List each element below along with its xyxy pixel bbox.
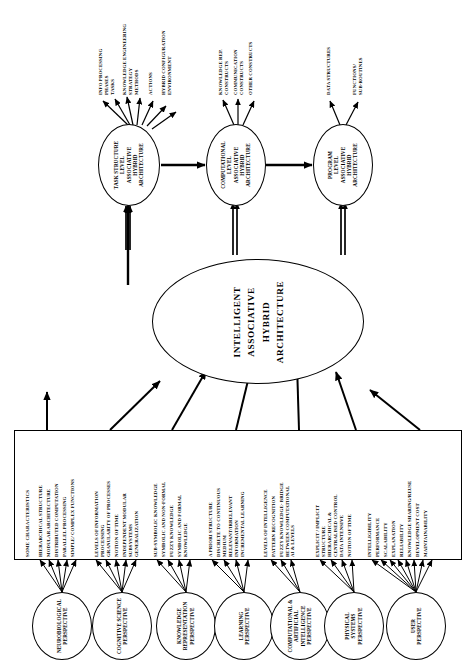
characteristic-item: EXPLICIT / IMPLICIT STRUCTURE bbox=[315, 505, 326, 557]
characteristic-item: LEVELS OF INTELLIGENCE bbox=[263, 489, 269, 557]
characteristic-item: DISCRETE TO CONTINUOUS MEDIUM bbox=[216, 488, 227, 557]
characteristic-item: SYMBOLIC AND NON-FORMAL bbox=[161, 482, 167, 557]
characteristic-item: PATTERN RECOGNITION bbox=[271, 496, 277, 557]
oval-cognitive-science-perspective[interactable]: COGNITIVE SCIENCE PERSPECTIVE bbox=[92, 592, 152, 660]
characteristic-item: PERFORMANCE bbox=[375, 518, 381, 557]
characteristics-group-cognitive-science: LEVELS OF INFORMATION PROCESSING GRANULA… bbox=[91, 431, 153, 559]
characteristic-item: INTELLIGIBILITY bbox=[367, 513, 373, 557]
characteristics-group-learning: A PRIORI STRUCTURE DISCRETE TO CONTINUOU… bbox=[205, 431, 263, 559]
oval-learning-perspective[interactable]: LEARNING PERSPECTIVE bbox=[214, 592, 274, 660]
characteristic-item: EXPLANATION bbox=[391, 520, 397, 557]
characteristic-item: SIMPLE/ COMPLEX FUNCTIONS bbox=[70, 479, 76, 557]
top-output-hybrid-configuration-environment: HYBRID CONFIGURATION ENVIRONMENT bbox=[161, 31, 172, 95]
top-output-tasks: TASKS bbox=[110, 79, 116, 95]
characteristic-item: RELEVANT/IRRELEVANT INFORMATION bbox=[228, 496, 239, 557]
characteristic-item: NOTION OF TIME bbox=[347, 514, 353, 557]
node-task-structure-level-label: TASK STRUCTURE LEVEL ASSOCIATIVE HYBRID … bbox=[113, 141, 145, 189]
oval-neurobiological-perspective[interactable]: NEUROBIOLOGICAL PERSPECTIVE bbox=[32, 592, 92, 660]
oval-knowledge-representation-perspective-label: KNOWLEDGE REPRESENTATION PERSPECTIVE bbox=[176, 602, 195, 651]
oval-knowledge-representation-perspective[interactable]: KNOWLEDGE REPRESENTATION PERSPECTIVE bbox=[156, 592, 216, 660]
characteristic-item: DISTRIBUTED COMPUTATION bbox=[54, 483, 60, 557]
node-task-structure-level[interactable]: TASK STRUCTURE LEVEL ASSOCIATIVE HYBRID … bbox=[98, 124, 160, 206]
oval-neurobiological-perspective-label: NEUROBIOLOGICAL PERSPECTIVE bbox=[56, 599, 69, 653]
oval-user-perspective[interactable]: USER PERSPECTIVE bbox=[386, 592, 446, 660]
characteristic-item: KNOWLEDGE SHARING/REUSE bbox=[407, 481, 413, 557]
node-intelligent-associative-hybrid-architecture[interactable]: INTELLIGENT ASSOCIATIVE HYBRID ARCHITECT… bbox=[152, 259, 364, 384]
characteristics-group-knowledge-representation: SUB-SYMBOLIC KNOWLEDGE SYMBOLIC AND NON-… bbox=[150, 431, 208, 559]
characteristic-item: HIERARCHICAL & CENTRALISED CONTROL bbox=[327, 494, 338, 557]
node-center-label: INTELLIGENT ASSOCIATIVE HYBRID ARCHITECT… bbox=[230, 280, 287, 362]
characteristic-item: FUZZY KNOWLEDGE bbox=[169, 505, 175, 557]
characteristic-item: PARALLEL PROCESSING bbox=[62, 497, 68, 557]
characteristics-header: SOME CHARACTERISTICS bbox=[25, 490, 30, 557]
node-program-level-label: PROGRAM LEVEL ASSOCIATIVE HYBRID ARCHITE… bbox=[327, 143, 359, 186]
top-output-communication-constructs: COMMUNICATION CONSTRUCTS bbox=[233, 49, 244, 95]
top-output-methods: METHODS bbox=[134, 70, 140, 95]
oval-physical-systems-perspective-label: PHYSICAL SYSTEMS PERSPECTIVE bbox=[344, 607, 363, 644]
characteristic-item: GRANULARITY OF PROCESSES bbox=[106, 481, 112, 557]
node-program-level[interactable]: PROGRAM LEVEL ASSOCIATIVE HYBRID ARCHITE… bbox=[313, 124, 373, 206]
diagram-canvas: INFO PROCESSING PHASES TASKS KNOWLEDGE E… bbox=[0, 0, 476, 667]
top-output-other-constructs: OTHER CONSTRUCTS bbox=[248, 42, 254, 95]
characteristics-group-computational-ai: LEVELS OF INTELLIGENCE PATTERN RECOGNITI… bbox=[260, 431, 318, 559]
oval-computational-ai-perspective-label: COMPUTATIONAL & ARTIFICIAL INTELLIGENCE … bbox=[287, 599, 312, 652]
characteristic-item: LEVELS OF INFORMATION PROCESSING bbox=[94, 491, 105, 557]
oval-cognitive-science-perspective-label: COGNITIVE SCIENCE PERSPECTIVE bbox=[116, 598, 129, 654]
characteristic-item: HIERARCHICAL STRUCTURE bbox=[38, 485, 44, 557]
characteristics-group-physical-systems: EXPLICIT / IMPLICIT STRUCTURE HIERARCHIC… bbox=[312, 431, 370, 559]
oval-user-perspective-label: USER PERSPECTIVE bbox=[410, 607, 423, 644]
characteristic-item: SYMBOLIC AND FORMAL KNOWLEDGE bbox=[177, 495, 188, 557]
characteristic-item: RELIABILITY bbox=[399, 524, 405, 557]
characteristic-item: INCREMENTAL LEARNING bbox=[240, 491, 246, 557]
characteristic-item: DEVELOPMENT COST bbox=[415, 503, 421, 557]
characteristic-item: NOTION OF TIME bbox=[114, 514, 120, 557]
top-output-data-structures: DATA STRUCTURES bbox=[326, 47, 332, 95]
top-output-info-processing-phases: INFO PROCESSING PHASES bbox=[98, 49, 109, 95]
characteristic-item: SCALABILITY bbox=[383, 523, 389, 557]
characteristic-item: A PRIORI STRUCTURE bbox=[208, 502, 214, 557]
characteristic-item: SUB-SYMBOLIC KNOWLEDGE bbox=[153, 483, 159, 557]
characteristic-item: MAINTAINABILITY bbox=[423, 510, 429, 557]
characteristic-item: INDEPENDENT MODULAR SUBSYSTEMS bbox=[122, 493, 133, 557]
oval-computational-ai-perspective[interactable]: COMPUTATIONAL & ARTIFICIAL INTELLIGENCE … bbox=[270, 592, 330, 660]
oval-learning-perspective-label: LEARNING PERSPECTIVE bbox=[238, 607, 251, 644]
characteristics-box: SOME CHARACTERISTICS HIERARCHICAL STRUCT… bbox=[14, 430, 462, 560]
top-output-knowledge-rep-constructs: KNOWLEDGE REP. CONSTRUCTS bbox=[218, 49, 229, 95]
characteristic-item: FUZZY KNOWLEDGE- BRIDGE BETWEEN COMPUTAT… bbox=[279, 482, 296, 557]
top-output-functions-sub-routines: FUNCTIONS/ SUB-ROUTINES bbox=[352, 57, 363, 95]
characteristic-item: GENERALIZATION bbox=[134, 511, 140, 557]
characteristic-item: MODULAR ARCHITECTURE bbox=[46, 489, 52, 557]
characteristics-group-neurobiological: HIERARCHICAL STRUCTURE MODULAR ARCHITECT… bbox=[35, 431, 97, 559]
node-computational-level-label: COMPUTATIONAL LEVEL ASSOCIATIVE HYBRID A… bbox=[220, 141, 252, 189]
node-computational-level[interactable]: COMPUTATIONAL LEVEL ASSOCIATIVE HYBRID A… bbox=[206, 124, 266, 206]
top-output-knowledge-engineering-strategy: KNOWLEDGE ENGINEERING STRATEGY bbox=[122, 24, 133, 95]
top-output-actions: ACTIONS bbox=[148, 72, 154, 95]
characteristics-group-user: INTELLIGIBILITY PERFORMANCE SCALABILITY … bbox=[364, 431, 459, 559]
characteristic-item: DATA INTENSIVE bbox=[339, 515, 345, 557]
oval-physical-systems-perspective[interactable]: PHYSICAL SYSTEMS PERSPECTIVE bbox=[324, 592, 384, 660]
